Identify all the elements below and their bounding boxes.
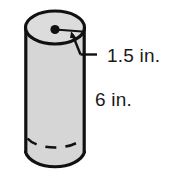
center-point-dot xyxy=(50,25,59,34)
cylinder-figure: 1.5 in. 6 in. xyxy=(0,0,187,172)
cylinder-body-fill xyxy=(26,28,85,167)
radius-dimension-label: 1.5 in. xyxy=(107,45,160,66)
cylinder-diagram-svg: 1.5 in. 6 in. xyxy=(0,0,187,172)
height-dimension-label: 6 in. xyxy=(95,89,132,110)
